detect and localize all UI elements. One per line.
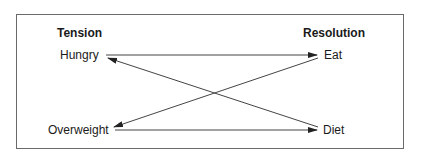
arrows-layer bbox=[0, 0, 422, 156]
